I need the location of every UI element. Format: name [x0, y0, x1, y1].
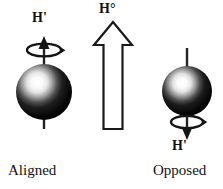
opposed-nucleus-sphere: [162, 66, 212, 116]
caption-opposed: Opposed: [153, 163, 206, 178]
aligned-spin-group: [16, 36, 72, 129]
label-h-prime-aligned: H': [32, 11, 47, 25]
aligned-precession-direction-arrow-icon: [61, 47, 65, 53]
spin-orientation-figure: H' H° H' Aligned Opposed: [0, 0, 223, 189]
figure-canvas: [0, 0, 223, 189]
external-field-arrow-outline-icon: [94, 22, 132, 129]
label-h-zero-external-field: H°: [99, 2, 116, 16]
caption-aligned: Aligned: [8, 163, 56, 178]
opposed-precession-direction-arrow-icon: [203, 119, 207, 125]
aligned-nucleus-sphere: [16, 64, 72, 120]
opposed-spin-group: [162, 48, 212, 140]
external-field-arrow: [94, 22, 132, 129]
label-h-prime-opposed: H': [172, 139, 187, 153]
